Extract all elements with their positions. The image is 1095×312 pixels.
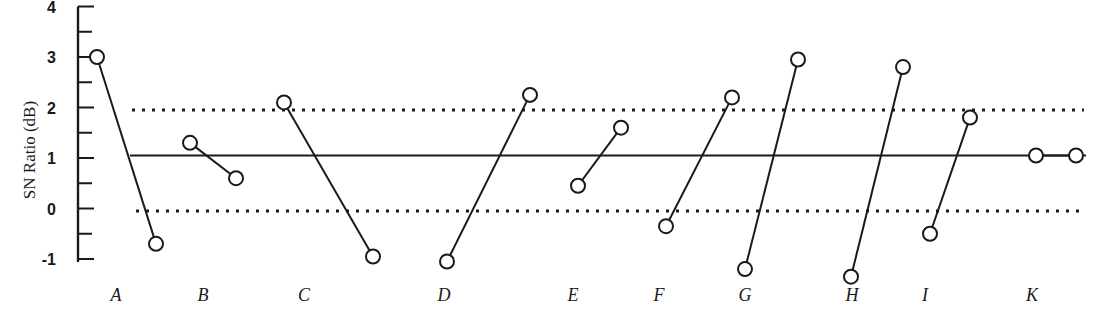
factor-E-level1-marker bbox=[571, 179, 585, 193]
y-tick-label: 1 bbox=[47, 150, 56, 167]
y-tick-label: 0 bbox=[47, 201, 56, 218]
x-category-label: E bbox=[567, 285, 579, 305]
factor-H-line bbox=[851, 67, 903, 277]
factor-C-level2-marker bbox=[366, 249, 380, 263]
factor-C-level1-marker bbox=[277, 95, 291, 109]
factor-D-level2-marker bbox=[523, 88, 537, 102]
factor-H-level2-marker bbox=[896, 60, 910, 74]
y-tick-label: 3 bbox=[47, 49, 56, 66]
factor-E-level2-marker bbox=[614, 121, 628, 135]
x-category-label: D bbox=[437, 285, 451, 305]
x-category-label: C bbox=[298, 285, 311, 305]
x-category-label: A bbox=[110, 285, 123, 305]
factor-K-level2-marker bbox=[1069, 148, 1083, 162]
factor-G-line bbox=[745, 60, 798, 270]
sn-ratio-chart: 43210-1ABCDEFGHIK bbox=[0, 0, 1095, 312]
factor-B-level1-marker bbox=[183, 136, 197, 150]
factor-H-level1-marker bbox=[844, 270, 858, 284]
factor-A-line bbox=[97, 57, 156, 244]
factor-F-level2-marker bbox=[725, 90, 739, 104]
factor-E-line bbox=[578, 128, 621, 186]
factor-F-level1-marker bbox=[659, 219, 673, 233]
x-category-label: H bbox=[845, 285, 860, 305]
factor-D-line bbox=[447, 95, 530, 262]
factor-B-level2-marker bbox=[229, 171, 243, 185]
x-category-label: B bbox=[198, 285, 209, 305]
y-tick-label: 4 bbox=[47, 0, 56, 16]
factor-A-level1-marker bbox=[90, 50, 104, 64]
factor-G-level2-marker bbox=[791, 53, 805, 67]
y-tick-label: -1 bbox=[42, 251, 56, 268]
factor-D-level1-marker bbox=[440, 255, 454, 269]
x-category-label: F bbox=[653, 285, 666, 305]
factor-G-level1-marker bbox=[738, 262, 752, 276]
y-tick-label: 2 bbox=[47, 100, 56, 117]
factor-I-level2-marker bbox=[963, 111, 977, 125]
factor-A-level2-marker bbox=[149, 237, 163, 251]
x-category-label: G bbox=[739, 285, 752, 305]
factor-I-level1-marker bbox=[923, 227, 937, 241]
factor-I-line bbox=[930, 118, 970, 234]
x-category-label: K bbox=[1025, 285, 1039, 305]
factor-B-line bbox=[190, 143, 236, 178]
x-category-label: I bbox=[921, 285, 929, 305]
factor-C-line bbox=[284, 102, 373, 256]
factor-F-line bbox=[666, 97, 732, 226]
factor-K-level1-marker bbox=[1029, 148, 1043, 162]
